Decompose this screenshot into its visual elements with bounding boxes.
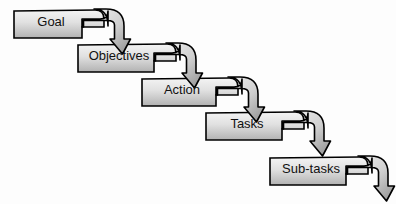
diagram-canvas: GoalObjectivesActionTasksSub-tasks [0, 0, 396, 204]
nodes-layer [14, 10, 368, 185]
arrows-layer [82, 9, 395, 201]
waterfall-flow-diagram: GoalObjectivesActionTasksSub-tasks [0, 0, 396, 204]
node-label-tasks: Tasks [230, 116, 264, 131]
node-label-goal: Goal [37, 14, 65, 29]
node-label-objectives: Objectives [89, 48, 150, 63]
node-label-sub-tasks: Sub-tasks [282, 161, 340, 176]
node-label-action: Action [164, 82, 200, 97]
